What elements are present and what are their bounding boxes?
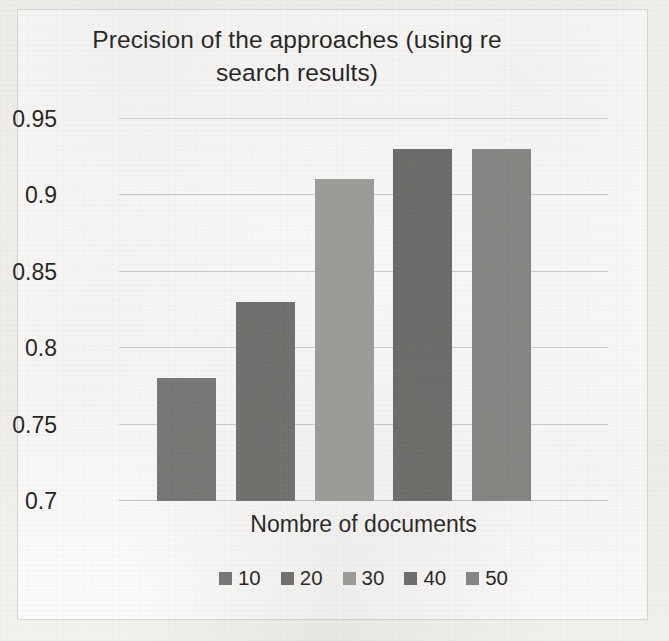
chart-legend: 10 20 30 40 50 xyxy=(119,568,608,588)
legend-label: 30 xyxy=(362,568,385,588)
bar-30[interactable] xyxy=(315,179,374,501)
bar-40[interactable] xyxy=(393,149,452,501)
legend-item-40[interactable]: 40 xyxy=(404,568,446,588)
legend-swatch-icon xyxy=(219,572,232,585)
legend-item-30[interactable]: 30 xyxy=(343,568,385,588)
legend-item-10[interactable]: 10 xyxy=(219,568,261,588)
y-tick-label-1: 0.9 xyxy=(0,182,57,209)
bar-20[interactable] xyxy=(236,302,295,501)
bar-group xyxy=(157,118,531,501)
legend-swatch-icon xyxy=(404,572,417,585)
chart-title: Precision of the approaches (using re se… xyxy=(32,23,562,89)
y-tick-label-0: 0.95 xyxy=(0,106,57,133)
y-tick-label-2: 0.85 xyxy=(0,259,57,286)
y-tick-label-5: 0.7 xyxy=(0,488,57,515)
legend-swatch-icon xyxy=(343,572,356,585)
legend-item-20[interactable]: 20 xyxy=(281,568,323,588)
legend-label: 10 xyxy=(238,568,261,588)
x-axis-label: Nombre of documents xyxy=(119,511,608,538)
legend-swatch-icon xyxy=(466,572,479,585)
legend-item-50[interactable]: 50 xyxy=(466,568,508,588)
bar-50[interactable] xyxy=(472,149,531,501)
bar-10[interactable] xyxy=(157,378,216,501)
chart-title-line-2: search results) xyxy=(32,56,562,89)
y-tick-label-3: 0.8 xyxy=(0,335,57,362)
legend-label: 40 xyxy=(423,568,446,588)
chart-title-line-1: Precision of the approaches (using re xyxy=(32,23,562,56)
legend-label: 20 xyxy=(300,568,323,588)
y-tick-label-4: 0.75 xyxy=(0,412,57,439)
legend-swatch-icon xyxy=(281,572,294,585)
legend-label: 50 xyxy=(485,568,508,588)
